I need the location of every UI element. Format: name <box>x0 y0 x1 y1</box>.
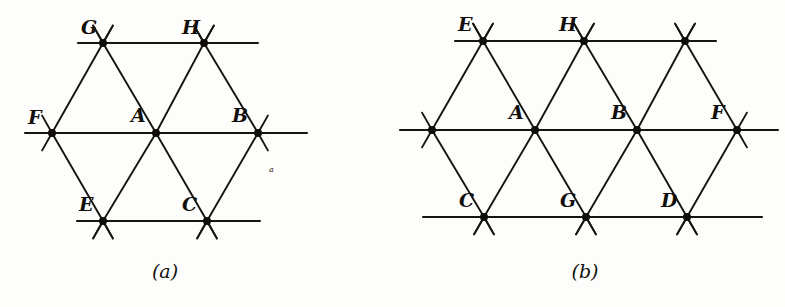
diagonal-a <box>52 43 103 133</box>
node-unlabeled <box>428 126 436 134</box>
node-A <box>531 126 539 134</box>
vertex-label-F: F <box>27 106 43 128</box>
diagonal-b <box>535 41 584 130</box>
vertex-label-A: A <box>507 101 524 123</box>
diagonal-b <box>586 130 637 217</box>
vertex-label-E: E <box>457 13 473 35</box>
diagonal-a <box>103 133 156 221</box>
node-A <box>152 129 160 137</box>
vertex-label-C: C <box>459 189 474 211</box>
diagonal-a <box>207 133 258 221</box>
node-F <box>48 129 56 137</box>
node-G <box>99 39 107 47</box>
node-E <box>99 217 107 225</box>
vertex-label-A: A <box>129 104 146 126</box>
panel-a-labels: GHFABEC <box>27 16 248 215</box>
diagonal-a <box>103 43 156 133</box>
diagonal-a <box>156 43 204 133</box>
node-E <box>479 37 487 45</box>
diagonal-b <box>432 41 483 130</box>
panel-a-lines <box>25 26 307 239</box>
panel-caption-a: (a) <box>152 260 178 282</box>
panel-caption-b: (b) <box>572 260 599 282</box>
node-F <box>733 126 741 134</box>
diagonal-b <box>484 130 535 217</box>
node-H <box>200 39 208 47</box>
diagonal-a <box>204 43 258 133</box>
vertex-label-C: C <box>182 193 197 215</box>
node-C <box>203 217 211 225</box>
vertex-label-B: B <box>610 101 627 123</box>
diagonal-b <box>432 130 484 217</box>
panel-captions: (a)(b) <box>152 260 599 282</box>
node-G <box>582 213 590 221</box>
vertex-label-H: H <box>558 13 578 35</box>
panel-annotations: a <box>269 165 274 174</box>
node-H <box>580 37 588 45</box>
diagonal-b <box>687 130 737 217</box>
node-B <box>254 129 262 137</box>
diagonal-b <box>637 41 685 130</box>
diagonal-a <box>52 133 103 221</box>
vertex-label-E: E <box>78 193 94 215</box>
annotation-a: a <box>269 165 274 174</box>
vertex-label-D: D <box>660 189 678 211</box>
lattice-figure-svg: GHFABEC EHABFCGD (a)(b) a <box>0 0 785 307</box>
vertex-label-F: F <box>710 101 726 123</box>
node-unlabeled <box>681 37 689 45</box>
node-B <box>633 126 641 134</box>
vertex-label-G: G <box>560 189 576 211</box>
vertex-label-G: G <box>81 16 97 38</box>
vertex-label-H: H <box>181 16 201 38</box>
node-C <box>480 213 488 221</box>
vertex-label-B: B <box>231 104 248 126</box>
figure-root: GHFABEC EHABFCGD (a)(b) a <box>0 0 785 307</box>
panel-b-lines <box>400 24 778 235</box>
node-D <box>683 213 691 221</box>
